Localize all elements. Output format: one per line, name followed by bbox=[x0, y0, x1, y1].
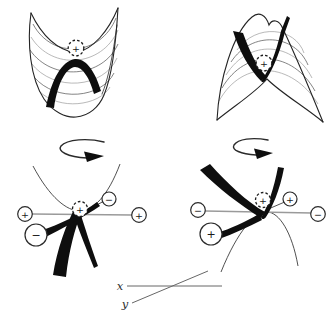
cross-section-left: + + − − + bbox=[18, 164, 147, 277]
electrode-sign-left-plus: + bbox=[21, 209, 29, 220]
electrode-sign-left-minus: − bbox=[194, 205, 202, 216]
saddle-surface-left: + bbox=[29, 8, 118, 117]
particle-sign-left-section: + bbox=[76, 204, 84, 215]
xy-axes: x y bbox=[117, 271, 222, 311]
ridge-ribbon-left-section bbox=[39, 202, 100, 277]
y-axis-line bbox=[132, 271, 208, 303]
electrode-sign-front-plus: + bbox=[206, 228, 215, 241]
rotation-arrow-right-icon bbox=[233, 139, 273, 159]
electrode-sign-right-plus: + bbox=[135, 210, 143, 221]
particle-sign-top-right: + bbox=[260, 58, 268, 69]
electrode-sign-right-minus: − bbox=[314, 209, 322, 220]
figure-canvas: + + bbox=[0, 0, 333, 322]
cross-section-right: − − + + + bbox=[191, 164, 326, 272]
particle-sign-right-section: + bbox=[259, 195, 267, 206]
particle-sign-top-left: + bbox=[72, 43, 80, 54]
y-axis-label: y bbox=[121, 297, 129, 311]
electrode-sign-back-plus: + bbox=[286, 194, 294, 205]
rotation-arrow-left-icon bbox=[60, 140, 104, 162]
saddle-surface-right: + bbox=[217, 14, 323, 122]
electrode-sign-back-minus: − bbox=[105, 194, 113, 205]
diagram-svg: + + bbox=[0, 0, 333, 322]
electrode-sign-front-minus: − bbox=[31, 229, 40, 242]
x-axis-label: x bbox=[117, 279, 124, 293]
